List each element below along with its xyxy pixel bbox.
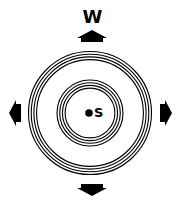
down-arrow-icon[interactable] [77,184,107,196]
up-arrow-icon[interactable] [77,30,107,42]
right-arrow-icon[interactable] [160,100,172,126]
west-label: W [78,8,107,26]
left-arrow-icon[interactable] [9,100,21,126]
compass-diagram [0,0,184,206]
center-s-label: S [94,106,103,119]
center-dot [85,109,93,117]
